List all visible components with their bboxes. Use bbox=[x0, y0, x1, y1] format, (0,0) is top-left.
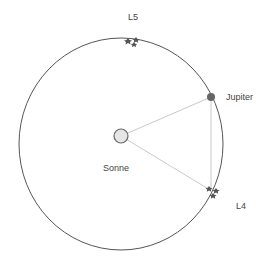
sun-icon bbox=[114, 129, 128, 143]
jupiter-label: Jupiter bbox=[226, 92, 253, 102]
l5-label: L5 bbox=[128, 12, 138, 22]
diagram-canvas bbox=[0, 0, 268, 262]
sun-jupiter-line bbox=[121, 97, 211, 136]
sun-l4-line bbox=[121, 136, 210, 190]
orbit-circle bbox=[19, 38, 223, 250]
jupiter-icon bbox=[207, 93, 215, 101]
l4-label: L4 bbox=[236, 201, 246, 211]
l4-asteroids-icon bbox=[206, 186, 220, 199]
sun-label: Sonne bbox=[103, 163, 129, 173]
